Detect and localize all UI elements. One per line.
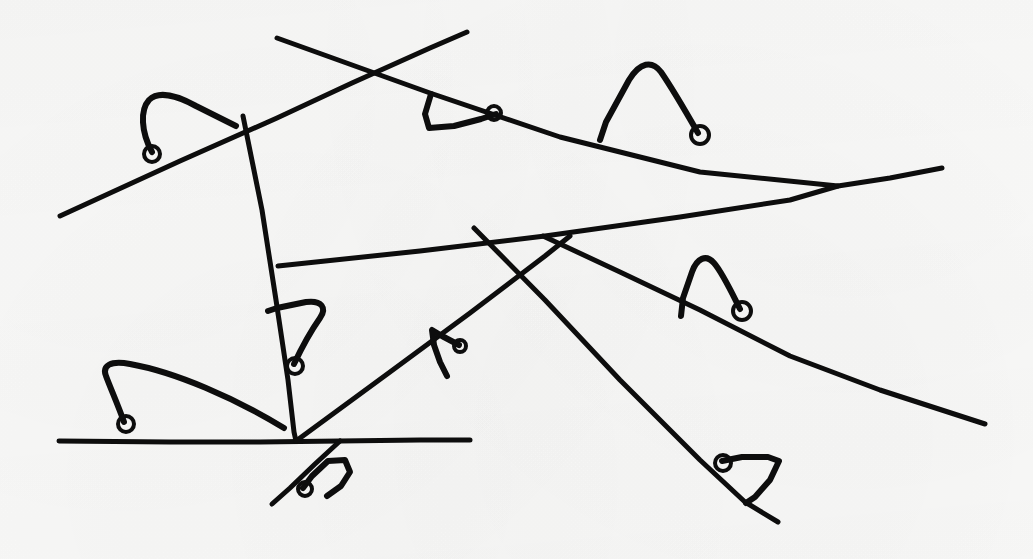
marker-upper-left — [143, 95, 236, 162]
marker-lower-right — [715, 455, 779, 503]
hand-drawn-figure-canvas — [0, 0, 1033, 559]
figure-page — [0, 0, 1033, 559]
marker-mid-right — [681, 258, 751, 320]
line-vertical-drop — [243, 116, 296, 441]
marker-top-right-arc — [600, 64, 698, 140]
line-right-descending-long — [543, 236, 985, 424]
marker-top-right — [600, 64, 709, 144]
marker-bottom-left — [105, 363, 284, 432]
line-mid-wedge-upper — [278, 186, 838, 266]
marker-bottom-center — [298, 460, 350, 496]
line-bottom-horizontal — [59, 440, 470, 442]
line-upper-left-ridge — [60, 32, 467, 216]
marker-hub-upper-arc — [268, 302, 323, 364]
